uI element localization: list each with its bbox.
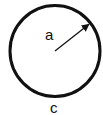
radius-arrow [55,25,88,51]
circle-diagram [0,0,103,115]
radius-label: a [45,27,53,42]
circumference-label: c [50,100,58,115]
